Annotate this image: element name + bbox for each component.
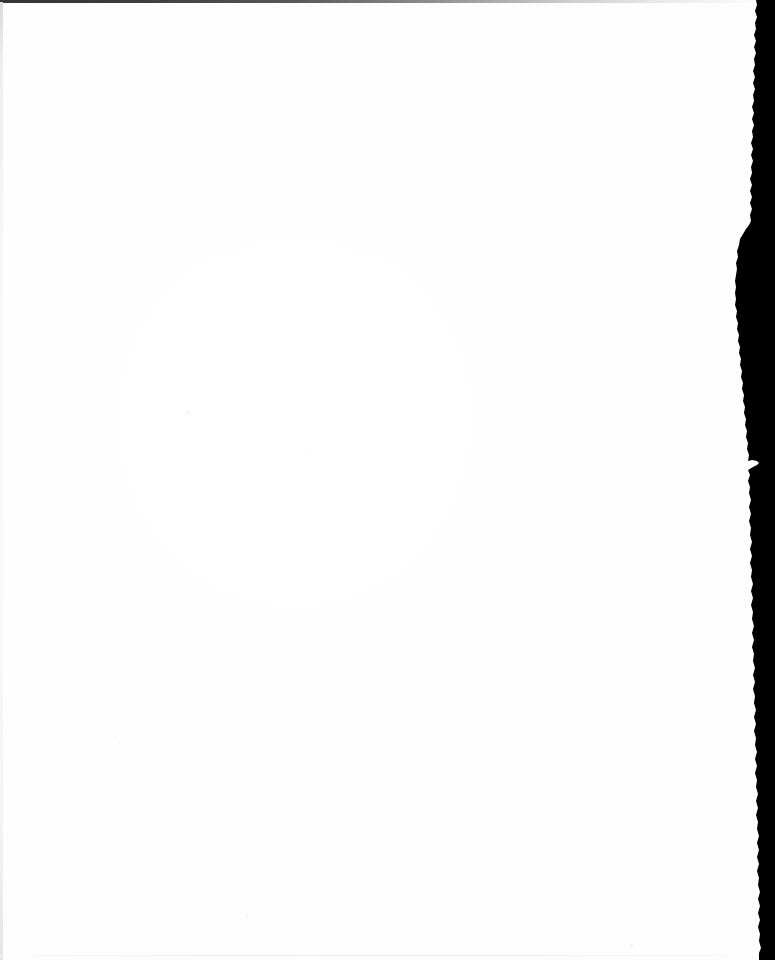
scanned-page: [0, 0, 775, 960]
page-surface: [0, 0, 775, 960]
